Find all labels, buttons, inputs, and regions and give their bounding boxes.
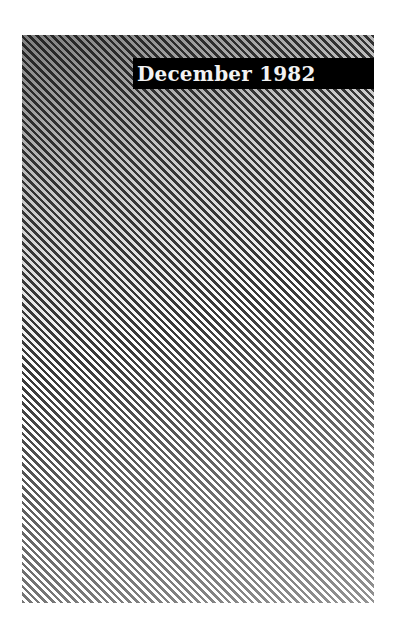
cover-artwork: December 1982: [22, 35, 374, 603]
title-banner: December 1982: [133, 58, 374, 89]
cover-title: December 1982: [133, 62, 316, 86]
stripe-gradient-overlay: [22, 35, 374, 603]
